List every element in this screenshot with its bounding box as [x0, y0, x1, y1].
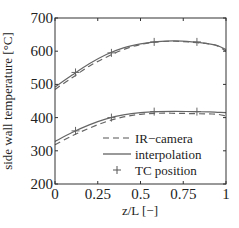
x-tick-label: 0.5 [131, 186, 150, 202]
x-tick-label: 0.25 [85, 186, 111, 202]
y-tick-label: 400 [31, 110, 54, 126]
legend-plus-marker-icon [113, 166, 121, 174]
tc-position-marker [193, 38, 201, 46]
tc-position-marker [107, 114, 115, 122]
plot-lines [55, 38, 226, 145]
x-axis-label: z/L [−] [122, 203, 158, 218]
y-tick-labels: 200300400500600700 [31, 10, 54, 192]
x-tick-labels: 00.250.50.751 [51, 186, 230, 202]
legend: IR−camera interpolation TC position [103, 131, 202, 178]
tc-position-marker [193, 108, 201, 116]
legend-label-tc-position: TC position [135, 163, 197, 178]
x-tick-label: 1 [222, 186, 230, 202]
x-tick-label: 0.75 [170, 186, 196, 202]
y-tick-label: 700 [31, 10, 54, 26]
y-tick-label: 300 [31, 143, 54, 159]
y-axis-label: side wall temperature [°C] [0, 32, 15, 170]
x-tick-label: 0 [51, 186, 59, 202]
y-tick-label: 200 [31, 176, 54, 192]
tc-position-marker [150, 38, 158, 46]
legend-label-interpolation: interpolation [135, 147, 202, 162]
temperature-line-chart: 200300400500600700 00.250.50.751 z/L [−]… [0, 0, 239, 228]
ir-camera-line [55, 41, 226, 89]
tc-position-marker [150, 108, 158, 116]
y-tick-label: 500 [31, 76, 54, 92]
interpolation-line [55, 41, 226, 87]
tc-position-marker [72, 127, 80, 135]
legend-label-ir-camera: IR−camera [135, 131, 193, 146]
y-tick-label: 600 [31, 43, 54, 59]
